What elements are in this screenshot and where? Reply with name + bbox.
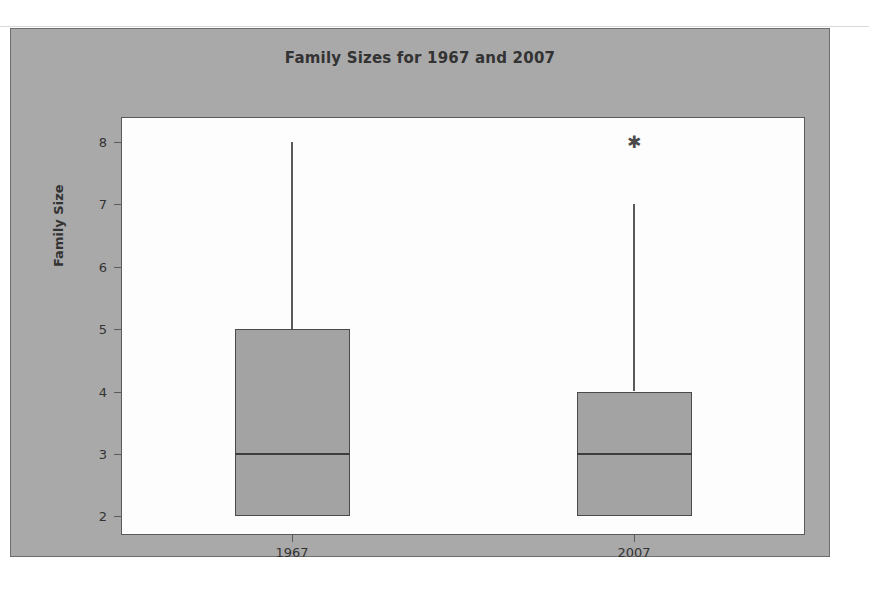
y-tick-label: 7 — [85, 197, 107, 212]
y-tick-mark — [114, 392, 121, 393]
x-tick-label-2007: 2007 — [617, 545, 650, 560]
y-axis-ticks: 2345678 — [11, 29, 121, 556]
y-tick-label: 2 — [85, 509, 107, 524]
y-tick-mark — [114, 204, 121, 205]
y-tick-label: 8 — [85, 134, 107, 149]
chart-title: Family Sizes for 1967 and 2007 — [11, 49, 829, 67]
y-tick-mark — [114, 516, 121, 517]
y-tick-label: 6 — [85, 259, 107, 274]
outlier-marker-2007-0: ✱ — [627, 133, 641, 150]
median-line-2007 — [577, 453, 692, 455]
top-divider-rule — [0, 26, 869, 27]
y-tick-label: 4 — [85, 384, 107, 399]
box-1967 — [235, 329, 350, 516]
y-tick-label: 5 — [85, 322, 107, 337]
y-tick-mark — [114, 454, 121, 455]
y-tick-mark — [114, 267, 121, 268]
y-tick-label: 3 — [85, 446, 107, 461]
chart-panel: Family Sizes for 1967 and 2007 Family Si… — [10, 28, 830, 557]
x-tick-mark — [634, 535, 635, 542]
median-line-1967 — [235, 453, 350, 455]
x-tick-mark — [292, 535, 293, 542]
y-tick-mark — [114, 142, 121, 143]
upper-whisker-2007 — [633, 204, 635, 391]
plot-area — [121, 117, 805, 535]
y-tick-mark — [114, 329, 121, 330]
upper-whisker-1967 — [291, 142, 293, 329]
x-tick-label-1967: 1967 — [275, 545, 308, 560]
